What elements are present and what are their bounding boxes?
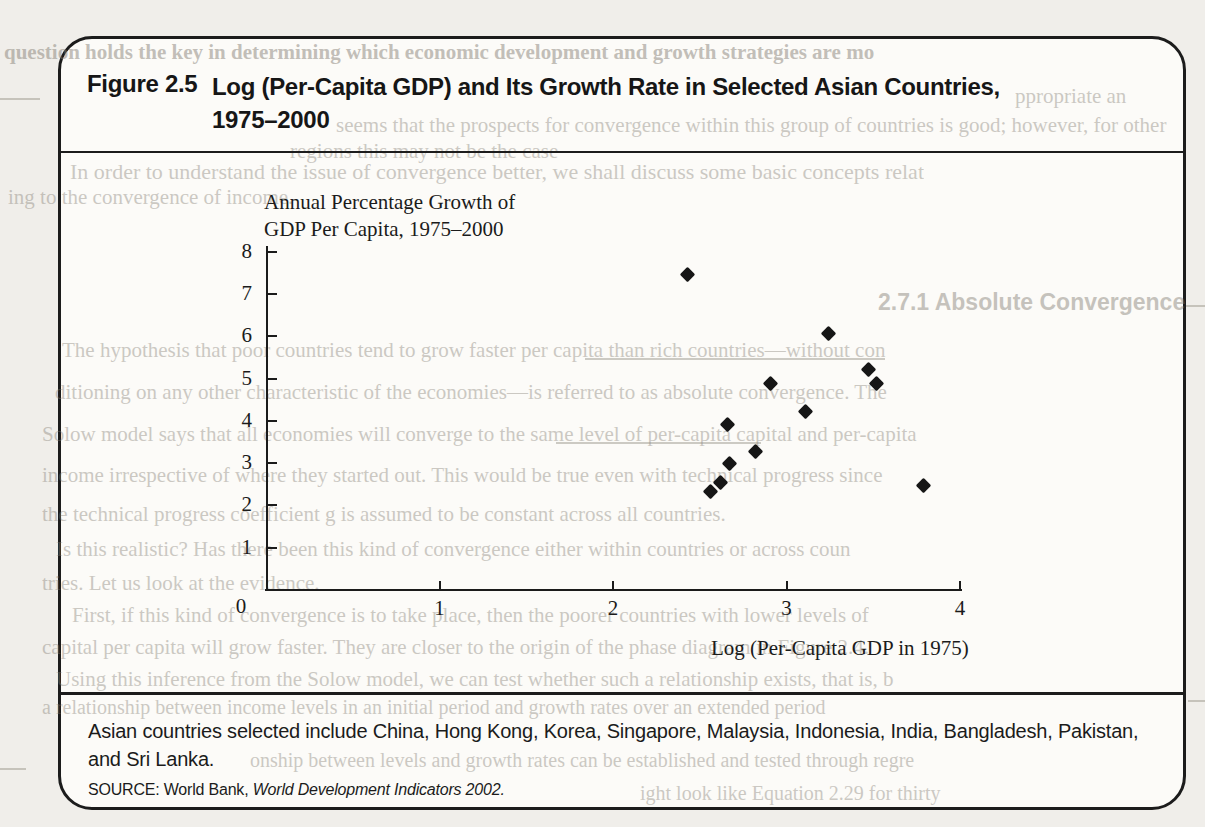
y-tick-mark bbox=[268, 504, 277, 506]
origin-tick-label: 0 bbox=[224, 594, 258, 619]
y-axis-title: Annual Percentage Growth of GDP Per Capi… bbox=[264, 189, 515, 243]
x-tick-label: 4 bbox=[943, 596, 977, 621]
scatter-chart: Annual Percentage Growth of GDP Per Capi… bbox=[0, 0, 1205, 827]
x-tick-mark bbox=[959, 581, 961, 590]
source-title-italic: World Development Indicators 2002. bbox=[253, 781, 505, 798]
data-point bbox=[916, 478, 932, 494]
data-point bbox=[820, 325, 836, 341]
y-axis-title-line2: GDP Per Capita, 1975–2000 bbox=[264, 217, 504, 241]
y-tick-mark bbox=[268, 335, 277, 337]
figure-caption: Asian countries selected include China, … bbox=[88, 717, 1138, 773]
x-tick-label: 1 bbox=[423, 596, 457, 621]
x-tick-mark bbox=[786, 581, 788, 590]
y-tick-mark bbox=[268, 251, 277, 253]
y-tick-label: 3 bbox=[218, 450, 252, 475]
data-point bbox=[763, 375, 779, 391]
y-tick-label: 1 bbox=[218, 535, 252, 560]
data-point bbox=[869, 376, 885, 392]
y-tick-label: 7 bbox=[218, 281, 252, 306]
y-tick-label: 6 bbox=[218, 323, 252, 348]
figure-source: SOURCE: World Bank, World Development In… bbox=[88, 781, 505, 799]
data-point bbox=[747, 444, 763, 460]
x-tick-mark bbox=[612, 581, 614, 590]
y-tick-label: 2 bbox=[218, 492, 252, 517]
x-axis-title: Log (Per-Capita GDP in 1975) bbox=[711, 636, 969, 661]
figure-content: Figure 2.5 Log (Per-Capita GDP) and Its … bbox=[0, 0, 1205, 827]
y-axis-line bbox=[266, 246, 268, 591]
y-tick-mark bbox=[268, 462, 277, 464]
x-tick-mark bbox=[439, 581, 441, 590]
y-tick-label: 5 bbox=[218, 366, 252, 391]
figure-caption-line1: Asian countries selected include China, … bbox=[88, 720, 1138, 742]
y-axis-title-line1: Annual Percentage Growth of bbox=[264, 190, 515, 214]
scanned-book-page: question holds the key in determining wh… bbox=[0, 0, 1205, 827]
y-tick-mark bbox=[268, 293, 277, 295]
y-tick-mark bbox=[268, 378, 277, 380]
data-point bbox=[721, 455, 737, 471]
x-tick-label: 2 bbox=[596, 596, 630, 621]
y-tick-label: 8 bbox=[218, 239, 252, 264]
data-point bbox=[680, 267, 696, 283]
figure-caption-line2: and Sri Lanka. bbox=[88, 748, 214, 770]
y-tick-mark bbox=[268, 547, 277, 549]
x-tick-label: 3 bbox=[770, 596, 804, 621]
source-prefix: SOURCE: World Bank, bbox=[88, 781, 253, 798]
y-tick-label: 4 bbox=[218, 408, 252, 433]
data-point bbox=[798, 403, 814, 419]
y-tick-mark bbox=[268, 420, 277, 422]
chart-bottom-rule bbox=[60, 692, 1186, 695]
data-point bbox=[860, 361, 876, 377]
data-point bbox=[720, 416, 736, 432]
